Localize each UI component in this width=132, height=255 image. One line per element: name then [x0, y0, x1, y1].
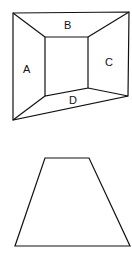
diagram-canvas: B A C D — [0, 0, 132, 255]
label-d: D — [69, 94, 77, 106]
inner-square — [45, 37, 88, 96]
trapezoid-shape — [15, 158, 130, 246]
edge-top-left — [13, 13, 45, 37]
edge-bottom-right — [88, 88, 128, 96]
edge-top-right — [88, 12, 129, 37]
label-a: A — [23, 63, 31, 75]
label-c: C — [105, 56, 113, 68]
label-b: B — [64, 19, 71, 31]
